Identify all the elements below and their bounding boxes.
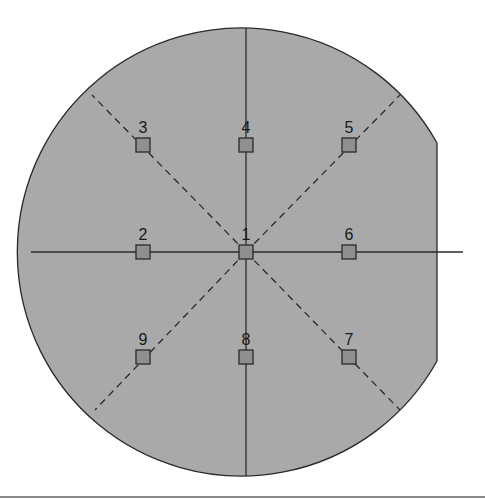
square-marker-icon xyxy=(239,350,253,364)
point-label: 3 xyxy=(139,119,148,136)
square-marker-icon xyxy=(136,350,150,364)
point-label: 7 xyxy=(345,331,354,348)
square-marker-icon xyxy=(239,138,253,152)
point-label: 5 xyxy=(345,119,354,136)
square-marker-icon xyxy=(136,245,150,259)
point-label: 1 xyxy=(242,226,251,243)
point-label: 9 xyxy=(139,331,148,348)
square-marker-icon xyxy=(239,245,253,259)
point-label: 6 xyxy=(345,226,354,243)
square-marker-icon xyxy=(342,138,356,152)
square-marker-icon xyxy=(342,350,356,364)
square-marker-icon xyxy=(342,245,356,259)
square-marker-icon xyxy=(136,138,150,152)
point-label: 4 xyxy=(242,119,251,136)
point-label: 2 xyxy=(139,226,148,243)
point-label: 8 xyxy=(242,331,251,348)
wafer-diagram: 123456789 xyxy=(0,0,485,499)
